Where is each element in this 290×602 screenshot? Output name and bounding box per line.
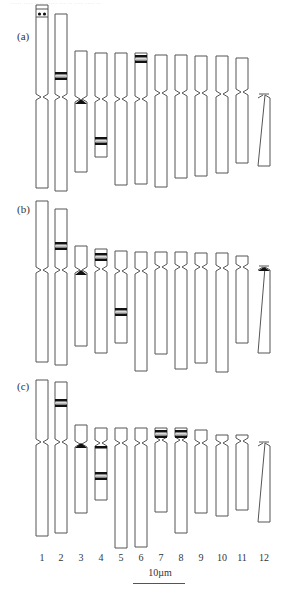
chromosome-outline (155, 428, 167, 512)
chromosome-2 (55, 209, 67, 365)
band (155, 436, 167, 439)
chromosome-3 (75, 246, 87, 346)
band (55, 242, 67, 245)
chromosome-1 (36, 5, 48, 188)
chromosome-number-6: 6 (139, 552, 144, 563)
band (115, 308, 127, 311)
chromosome-1 (36, 380, 48, 536)
chromosome-12 (258, 94, 270, 166)
chromosome-number-10: 10 (217, 552, 227, 563)
chromosome-number-1: 1 (40, 552, 45, 563)
chromosome-8 (175, 252, 187, 369)
chromosome-5 (115, 251, 127, 343)
chromosome-7 (155, 55, 167, 187)
chromosome-7 (155, 428, 167, 512)
chromosome-outline (216, 435, 228, 516)
chromosome-7 (155, 252, 167, 354)
chromosome-12 (258, 266, 270, 353)
band-gap (55, 76, 67, 78)
chromosome-9 (195, 253, 207, 363)
chromosome-outline (75, 51, 87, 172)
chromosome-number-4: 4 (99, 552, 104, 563)
chromosome-outline (236, 435, 248, 510)
chromosome-outline (55, 209, 67, 365)
band (95, 478, 107, 481)
chromosome-outline (175, 428, 187, 533)
chromosome-3 (75, 425, 87, 513)
chromosome-12 (258, 442, 270, 522)
chromosome-outline (258, 442, 270, 522)
chromosome-outline (216, 56, 228, 173)
chromosome-4 (95, 53, 107, 157)
band (55, 248, 67, 251)
chromosome-5 (115, 53, 127, 185)
chromosome-outline (155, 55, 167, 187)
chromosome-9 (195, 56, 207, 176)
band (55, 405, 67, 408)
chromosome-outline (135, 252, 147, 371)
band (155, 430, 167, 433)
chromosome-outline (258, 94, 270, 166)
chromosome-9 (195, 430, 207, 513)
band (95, 137, 107, 140)
karyotype-ideogram (0, 0, 290, 602)
chromosome-outline (175, 252, 187, 369)
chromosome-outline (75, 425, 87, 513)
chromosome-outline (75, 246, 87, 346)
band-gap (95, 257, 107, 259)
band-gap (175, 434, 187, 436)
chromosome-outline (55, 14, 67, 191)
chromosome-outline (115, 53, 127, 185)
chromosome-outline (135, 53, 147, 184)
band (175, 430, 187, 433)
chromosome-outline (36, 5, 48, 188)
chromosome-outline (135, 428, 147, 547)
chromosome-4 (95, 249, 107, 353)
chromosome-number-5: 5 (119, 552, 124, 563)
chromosome-6 (135, 53, 147, 184)
band-gap (135, 59, 147, 61)
band-gap (115, 312, 127, 314)
chromosome-outline (115, 428, 127, 548)
chromosome-4 (95, 428, 107, 500)
chromosome-outline (95, 249, 107, 353)
chromosome-outline (258, 266, 270, 353)
band (135, 61, 147, 64)
chromosome-11 (236, 58, 248, 163)
chromosome-outline (236, 256, 248, 343)
band (55, 72, 67, 75)
band-gap (55, 403, 67, 405)
chromosome-outline (115, 251, 127, 343)
scale-bar (133, 583, 185, 584)
dot-marker (38, 12, 41, 15)
chromosome-6 (135, 428, 147, 547)
chromosome-5 (115, 428, 127, 548)
chromosome-number-12: 12 (259, 552, 269, 563)
chromosome-number-8: 8 (179, 552, 184, 563)
chromosome-11 (236, 435, 248, 510)
chromosome-10 (216, 56, 228, 173)
chromosome-outline (36, 201, 48, 362)
chromosome-outline (195, 56, 207, 176)
band (135, 55, 147, 58)
chromosome-number-3: 3 (79, 552, 84, 563)
chromosome-number-11: 11 (237, 552, 247, 563)
band-gap (155, 434, 167, 436)
chromosome-3 (75, 51, 87, 172)
band (55, 78, 67, 81)
band-gap (95, 141, 107, 143)
band (95, 446, 107, 449)
band (95, 472, 107, 475)
chromosome-1 (36, 201, 48, 362)
dot-marker (43, 12, 46, 15)
band (95, 259, 107, 262)
chromosome-10 (216, 435, 228, 516)
chromosome-number-9: 9 (199, 552, 204, 563)
chromosome-outline (95, 428, 107, 500)
chromosome-2 (55, 382, 67, 533)
band (175, 436, 187, 439)
chromosome-outline (155, 252, 167, 354)
chromosome-outline (216, 253, 228, 372)
band-gap (55, 246, 67, 248)
chromosome-outline (195, 430, 207, 513)
